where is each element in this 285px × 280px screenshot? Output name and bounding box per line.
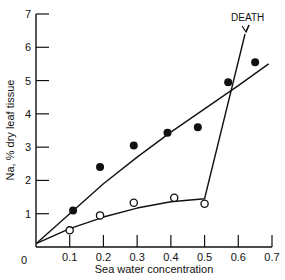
filled-data-point — [224, 78, 232, 86]
open-data-point — [96, 212, 103, 219]
open-data-point — [130, 199, 137, 206]
y-tick-label: 5 — [25, 75, 31, 87]
x-tick-label: 0.4 — [163, 251, 178, 263]
filled-data-point — [130, 141, 138, 149]
y-tick-label: 1 — [25, 208, 31, 220]
y-tick-label: 4 — [25, 108, 31, 120]
filled-data-point — [163, 129, 171, 137]
data-points — [66, 58, 259, 234]
filled-data-point — [69, 206, 77, 214]
x-tick-label: 0.2 — [96, 251, 111, 263]
x-tick-label: 0.3 — [129, 251, 144, 263]
x-tick-label: 0.6 — [231, 251, 246, 263]
filled-data-point — [251, 58, 259, 66]
y-tick-label: 2 — [25, 174, 31, 186]
open-data-point — [171, 194, 178, 201]
y-tick-label: 7 — [25, 8, 31, 20]
sodium-vs-seawater-chart: 12345670.10.20.30.40.50.60.7 Sea water c… — [0, 0, 285, 280]
filled-data-point — [96, 163, 104, 171]
arrowhead-icon — [242, 25, 249, 32]
y-tick-label: 6 — [25, 41, 31, 53]
open-data-point — [66, 227, 73, 234]
filled-data-point — [194, 123, 202, 131]
death-annotation: DEATH — [231, 12, 264, 23]
x-tick-label: 0.5 — [197, 251, 212, 263]
annotations: DEATH — [231, 12, 264, 32]
fit-line-open — [36, 34, 245, 244]
y-axis-label: Na, % dry leaf tissue — [4, 80, 16, 181]
x-axis-label: Sea water concentration — [95, 263, 214, 275]
fit-line-filled — [36, 64, 269, 244]
x-tick-label: 0.7 — [264, 251, 279, 263]
origin-label: 0 — [21, 254, 27, 266]
x-tick-label: 0.1 — [62, 251, 77, 263]
y-tick-label: 3 — [25, 141, 31, 153]
open-data-point — [201, 200, 208, 207]
